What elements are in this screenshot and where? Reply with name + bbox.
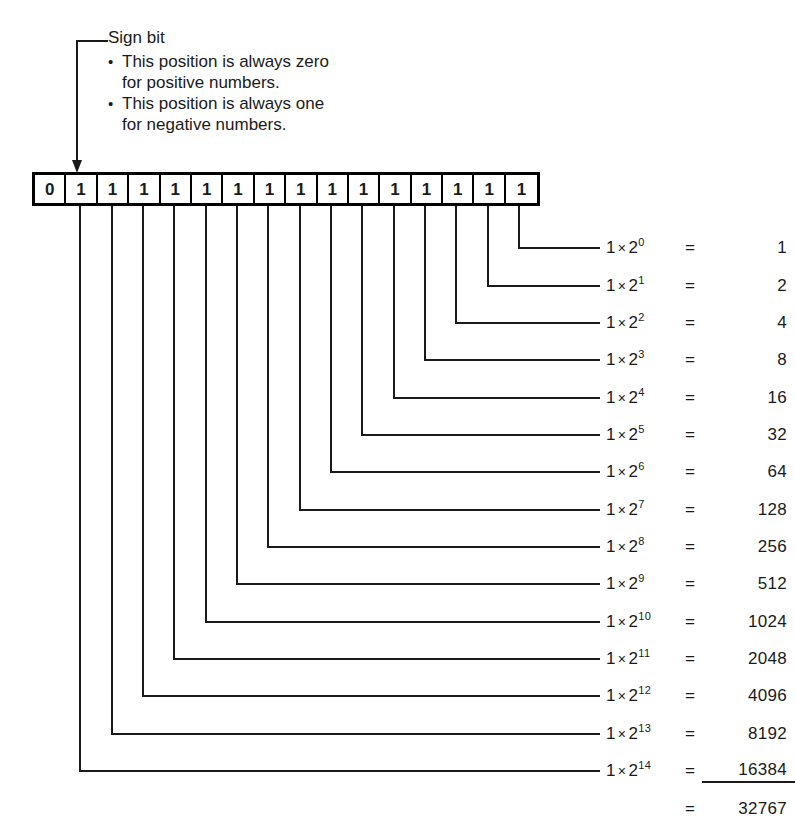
term-equals-sign: = — [678, 724, 702, 744]
term-equals-sign: = — [678, 238, 702, 258]
term-row-3: 1×23=8 — [606, 347, 795, 373]
bit-cell-3: 1 — [129, 175, 160, 203]
term-row-9: 1×29=512 — [606, 571, 795, 597]
term-equals-sign: = — [678, 350, 702, 370]
term-expression: 1×211 — [606, 649, 678, 669]
term-row-2: 1×22=4 — [606, 310, 795, 336]
bit-cell-8: 1 — [286, 175, 317, 203]
term-row-8: 1×28=256 — [606, 534, 795, 560]
term-row-4: 1×24=16 — [606, 385, 795, 411]
term-equals-sign: = — [678, 761, 702, 781]
sign-bit-callout: Sign bit This position is always zero fo… — [108, 28, 408, 135]
term-value: 2048 — [702, 649, 795, 669]
bit-row: 0111111111111111 — [32, 172, 540, 206]
term-expression: 1×212 — [606, 686, 678, 706]
term-expression: 1×27 — [606, 500, 678, 520]
term-expression: 1×214 — [606, 761, 678, 781]
term-row-0: 1×20=1 — [606, 235, 795, 261]
bullet-positive-line-1: This position is always zero — [122, 52, 329, 71]
term-row-10: 1×210=1024 — [606, 609, 795, 635]
term-value: 16384 — [702, 760, 795, 783]
term-equals-sign: = — [678, 313, 702, 333]
term-expression: 1×210 — [606, 612, 678, 632]
bit-cell-13: 1 — [443, 175, 474, 203]
sign-bit-bullet-negative: This position is always one for negative… — [108, 93, 408, 135]
term-row-7: 1×27=128 — [606, 497, 795, 523]
term-equals-sign: = — [678, 276, 702, 296]
term-value: 1 — [702, 238, 795, 258]
term-equals-sign: = — [678, 462, 702, 482]
term-expression: 1×22 — [606, 313, 678, 333]
bit-cell-14: 1 — [474, 175, 505, 203]
bullet-positive-line-2: for positive numbers. — [122, 72, 408, 93]
bullet-negative-line-1: This position is always one — [122, 94, 324, 113]
term-value: 4096 — [702, 686, 795, 706]
term-equals-sign: = — [678, 574, 702, 594]
term-expression: 1×213 — [606, 724, 678, 744]
term-row-12: 1×212=4096 — [606, 683, 795, 709]
bit-cell-10: 1 — [349, 175, 380, 203]
term-expression: 1×20 — [606, 238, 678, 258]
term-value: 1024 — [702, 612, 795, 632]
sign-bit-leader — [77, 41, 108, 165]
term-value: 16 — [702, 388, 795, 408]
term-value: 32 — [702, 425, 795, 445]
term-row-14: 1×214=16384 — [606, 758, 795, 784]
term-value: 64 — [702, 462, 795, 482]
bit-cell-15: 1 — [506, 175, 537, 203]
sign-bit-bullet-positive: This position is always zero for positiv… — [108, 51, 408, 93]
bit-cell-12: 1 — [412, 175, 443, 203]
term-value: 8192 — [702, 724, 795, 744]
term-equals-sign: = — [678, 425, 702, 445]
bit-cell-9: 1 — [318, 175, 349, 203]
bit-cell-4: 1 — [161, 175, 192, 203]
sign-bit-bullet-list: This position is always zero for positiv… — [108, 51, 408, 135]
term-expression: 1×24 — [606, 388, 678, 408]
bit-cell-1: 1 — [66, 175, 97, 203]
total-value: 32767 — [702, 799, 795, 819]
bit-cell-2: 1 — [98, 175, 129, 203]
term-equals-sign: = — [678, 612, 702, 632]
binary-place-value-diagram: Sign bit This position is always zero fo… — [0, 0, 795, 840]
term-equals-sign: = — [678, 500, 702, 520]
term-equals-sign: = — [678, 537, 702, 557]
term-row-1: 1×21=2 — [606, 273, 795, 299]
term-expression: 1×28 — [606, 537, 678, 557]
term-expression: 1×23 — [606, 350, 678, 370]
total-row: =32767 — [606, 796, 795, 822]
term-equals-sign: = — [678, 649, 702, 669]
term-value: 256 — [702, 537, 795, 557]
bit-cell-0: 0 — [35, 175, 66, 203]
term-equals-sign: = — [678, 686, 702, 706]
term-row-11: 1×211=2048 — [606, 646, 795, 672]
term-value: 512 — [702, 574, 795, 594]
term-value: 128 — [702, 500, 795, 520]
term-value: 4 — [702, 313, 795, 333]
term-expression: 1×25 — [606, 425, 678, 445]
bit-cell-5: 1 — [192, 175, 223, 203]
bullet-negative-line-2: for negative numbers. — [122, 114, 408, 135]
term-expression: 1×29 — [606, 574, 678, 594]
term-row-6: 1×26=64 — [606, 459, 795, 485]
term-value: 2 — [702, 276, 795, 296]
term-row-13: 1×213=8192 — [606, 721, 795, 747]
term-equals-sign: = — [678, 388, 702, 408]
bit-cell-7: 1 — [255, 175, 286, 203]
bit-cell-6: 1 — [223, 175, 254, 203]
term-row-5: 1×25=32 — [606, 422, 795, 448]
sign-bit-label: Sign bit — [108, 28, 408, 48]
total-equals-sign: = — [678, 799, 702, 819]
term-expression: 1×26 — [606, 462, 678, 482]
bit-cell-11: 1 — [380, 175, 411, 203]
term-value: 8 — [702, 350, 795, 370]
term-expression: 1×21 — [606, 276, 678, 296]
